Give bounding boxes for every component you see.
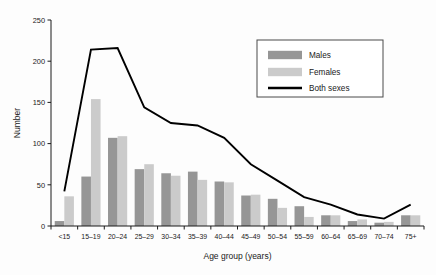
x-axis-title: Age group (years): [203, 251, 271, 261]
x-tick-label-1: 15–19: [81, 233, 100, 240]
y-tick-label-4: 200: [33, 57, 45, 66]
bar-females-10: [331, 215, 341, 226]
bar-females-12: [384, 222, 394, 226]
bar-males-7: [241, 196, 251, 226]
x-tick-label-11: 65–69: [348, 233, 367, 240]
bar-females-4: [171, 176, 181, 226]
legend-label-1: Females: [309, 68, 340, 77]
bars-group: [55, 99, 421, 226]
chart-figure: 050100150200250<1515–1920–2425–2930–3435…: [0, 0, 436, 275]
bar-females-2: [118, 136, 128, 226]
x-tick-label-4: 30–34: [161, 233, 180, 240]
x-tick-label-3: 25–29: [135, 233, 154, 240]
bar-males-9: [295, 206, 305, 226]
x-tick-label-9: 55–59: [295, 233, 314, 240]
y-tick-label-1: 50: [37, 181, 45, 190]
x-tick-label-13: 75+: [405, 233, 417, 240]
bar-males-8: [268, 199, 278, 226]
legend-swatch-females: [268, 68, 302, 76]
x-tick-label-12: 70–74: [374, 233, 393, 240]
x-tick-label-2: 20–24: [108, 233, 127, 240]
x-tick-label-8: 50–54: [268, 233, 287, 240]
x-tick-label-0: <15: [58, 233, 70, 240]
bar-males-5: [188, 172, 198, 226]
bar-males-11: [348, 221, 358, 226]
bar-males-13: [401, 215, 411, 226]
bar-females-0: [64, 196, 74, 226]
bar-females-7: [251, 195, 261, 226]
bar-females-11: [357, 219, 367, 226]
y-tick-label-3: 150: [33, 98, 45, 107]
bar-males-6: [215, 182, 225, 227]
bar-males-2: [108, 138, 118, 226]
legend-label-2: Both sexes: [309, 84, 350, 93]
x-tick-label-5: 35–39: [188, 233, 207, 240]
y-tick-label-2: 100: [33, 139, 45, 148]
bar-males-0: [55, 221, 65, 226]
bar-females-6: [224, 182, 234, 226]
y-axis-title: Number: [12, 108, 22, 138]
bar-males-10: [321, 215, 331, 226]
bar-females-13: [411, 215, 421, 226]
legend-label-0: Males: [309, 51, 331, 60]
bar-females-5: [198, 180, 208, 226]
chart-canvas: 050100150200250<1515–1920–2425–2930–3435…: [0, 0, 436, 275]
x-tick-label-6: 40–44: [215, 233, 234, 240]
y-tick-label-0: 0: [41, 222, 45, 231]
bar-males-1: [81, 177, 91, 226]
bar-males-4: [161, 173, 171, 226]
y-tick-label-5: 250: [33, 16, 45, 25]
bar-females-8: [277, 208, 287, 226]
x-tick-label-7: 45–49: [241, 233, 260, 240]
bar-males-3: [135, 169, 145, 226]
bar-females-9: [304, 217, 314, 226]
legend-swatch-males: [268, 51, 302, 59]
legend: MalesFemalesBoth sexes: [257, 40, 383, 97]
bar-females-1: [91, 99, 101, 226]
bar-females-3: [144, 164, 154, 226]
x-tick-label-10: 60–64: [321, 233, 340, 240]
